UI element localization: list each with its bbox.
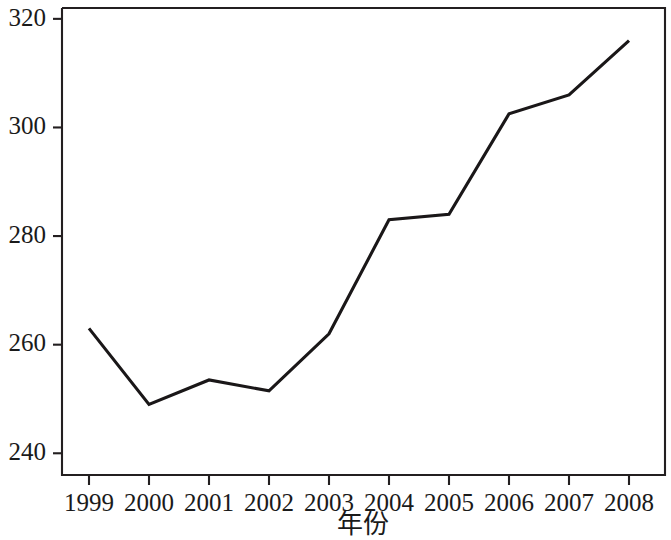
y-axis-tick-label: 260 — [9, 329, 47, 356]
x-axis-tick-label: 2001 — [184, 489, 234, 516]
x-axis-tick-label: 2006 — [484, 489, 534, 516]
y-axis-tick-label: 240 — [9, 438, 47, 465]
chart-canvas: 240260280300320 199920002001200220032004… — [0, 0, 671, 540]
line-chart: 240260280300320 199920002001200220032004… — [0, 0, 671, 540]
chart-background — [0, 0, 671, 540]
x-axis-tick-label: 2005 — [424, 489, 474, 516]
x-axis-tick-label: 2007 — [544, 489, 594, 516]
x-axis-tick-label: 2008 — [604, 489, 654, 516]
y-axis-tick-label: 320 — [9, 4, 47, 31]
x-axis-tick-label: 1999 — [64, 489, 114, 516]
x-axis-tick-label: 2002 — [244, 489, 294, 516]
x-axis-tick-label: 2000 — [124, 489, 174, 516]
y-axis-tick-label: 280 — [9, 221, 47, 248]
y-axis-tick-label: 300 — [9, 112, 47, 139]
x-axis-title: 年份 — [337, 510, 389, 539]
